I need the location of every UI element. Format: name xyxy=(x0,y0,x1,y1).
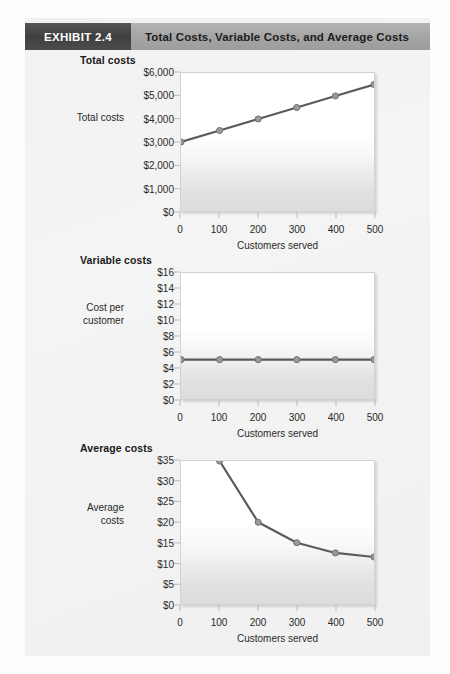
y-axis-tick-label: $8 xyxy=(130,331,174,342)
y-axis-tick-label: $4 xyxy=(130,363,174,374)
data-point-marker xyxy=(255,519,261,525)
x-axis-tick-label: 200 xyxy=(250,617,267,628)
data-point-marker xyxy=(255,116,261,122)
x-axis-tick-label: 500 xyxy=(367,224,384,235)
plot-area xyxy=(180,72,375,212)
y-axis-tick-label: $0 xyxy=(130,395,174,406)
x-axis-tick-label: 400 xyxy=(328,224,345,235)
x-axis-tick-label: 300 xyxy=(289,617,306,628)
y-axis-tick-label: $16 xyxy=(130,267,174,278)
x-axis-tick-label: 100 xyxy=(211,412,228,423)
y-axis-label: Average costs xyxy=(62,502,124,527)
data-point-marker xyxy=(371,357,374,363)
chart-total-costs: Total costs $0$1,000$2,000$3,000$4,000$5… xyxy=(25,50,430,250)
y-axis-tick-label: $35 xyxy=(130,455,174,466)
plot-area xyxy=(180,272,375,400)
data-point-marker xyxy=(217,461,223,464)
y-axis-tick-label: $5 xyxy=(130,579,174,590)
data-point-marker xyxy=(181,139,184,145)
exhibit-title: Total Costs, Variable Costs, and Average… xyxy=(131,23,430,50)
x-axis-tick-label: 300 xyxy=(289,412,306,423)
x-axis-tick-label: 0 xyxy=(177,412,183,423)
plot-area xyxy=(180,460,375,605)
y-axis-tick-labels: $0$1,000$2,000$3,000$4,000$5,000$6,000 xyxy=(130,72,174,212)
y-axis-tick-label: $3,000 xyxy=(130,137,174,148)
x-axis-tick-label: 0 xyxy=(177,617,183,628)
x-axis-label: Customers served xyxy=(237,633,318,644)
y-axis-tick-label: $2 xyxy=(130,379,174,390)
x-axis-tick-label: 500 xyxy=(367,617,384,628)
data-point-marker xyxy=(371,554,374,560)
x-axis-tick-label: 200 xyxy=(250,224,267,235)
y-axis-tick-labels: $0$5$10$15$20$25$30$35 xyxy=(130,460,174,605)
chart-title: Variable costs xyxy=(80,254,152,266)
x-axis-tick-label: 400 xyxy=(328,617,345,628)
data-point-marker xyxy=(332,93,338,99)
y-axis-tick-label: $15 xyxy=(130,537,174,548)
y-axis-tick-label: $1,000 xyxy=(130,183,174,194)
x-axis-tick-label: 0 xyxy=(177,224,183,235)
data-point-marker xyxy=(217,357,223,363)
y-axis-tick-labels: $0$2$4$6$8$10$12$14$16 xyxy=(130,272,174,400)
chart-title: Average costs xyxy=(80,442,153,454)
data-point-marker xyxy=(255,357,261,363)
series-canvas xyxy=(181,461,374,604)
y-axis-tick-label: $25 xyxy=(130,496,174,507)
data-point-marker xyxy=(332,550,338,556)
y-axis-tick-label: $0 xyxy=(130,600,174,611)
data-point-marker xyxy=(217,127,223,133)
data-point-marker xyxy=(294,357,300,363)
data-point-marker xyxy=(332,357,338,363)
series-canvas xyxy=(181,273,374,399)
data-point-marker xyxy=(294,540,300,546)
x-axis-tick-label: 400 xyxy=(328,412,345,423)
y-axis-tick-label: $6 xyxy=(130,347,174,358)
data-point-marker xyxy=(371,81,374,87)
y-axis-tick-label: $20 xyxy=(130,517,174,528)
y-axis-tick-label: $5,000 xyxy=(130,90,174,101)
y-axis-tick-label: $14 xyxy=(130,283,174,294)
data-point-marker xyxy=(181,357,184,363)
chart-title: Total costs xyxy=(80,54,136,66)
exhibit-number-badge: EXHIBIT 2.4 xyxy=(25,23,131,50)
y-axis-tick-label: $10 xyxy=(130,558,174,569)
y-axis-tick-label: $6,000 xyxy=(130,67,174,78)
chart-average-costs: Average costs $0$5$10$15$20$25$30$35Aver… xyxy=(25,438,430,648)
x-axis-tick-label: 300 xyxy=(289,224,306,235)
y-axis-tick-label: $10 xyxy=(130,315,174,326)
x-axis-tick-label: 200 xyxy=(250,412,267,423)
data-line xyxy=(181,85,374,142)
y-axis-tick-label: $2,000 xyxy=(130,160,174,171)
y-axis-tick-label: $0 xyxy=(130,207,174,218)
y-axis-tick-label: $4,000 xyxy=(130,113,174,124)
y-axis-tick-label: $30 xyxy=(130,475,174,486)
data-point-marker xyxy=(294,104,300,110)
exhibit-panel: EXHIBIT 2.4 Total Costs, Variable Costs,… xyxy=(25,18,430,656)
chart-variable-costs: Variable costs $0$2$4$6$8$10$12$14$16Cos… xyxy=(25,250,430,438)
series-canvas xyxy=(181,73,374,211)
x-axis-tick-label: 500 xyxy=(367,412,384,423)
y-axis-tick-label: $12 xyxy=(130,299,174,310)
exhibit-page: EXHIBIT 2.4 Total Costs, Variable Costs,… xyxy=(0,0,450,674)
exhibit-header: EXHIBIT 2.4 Total Costs, Variable Costs,… xyxy=(25,23,430,50)
x-axis-tick-label: 100 xyxy=(211,617,228,628)
y-axis-label: Total costs xyxy=(62,112,124,125)
x-axis-tick-label: 100 xyxy=(211,224,228,235)
y-axis-label: Cost per customer xyxy=(62,302,124,327)
